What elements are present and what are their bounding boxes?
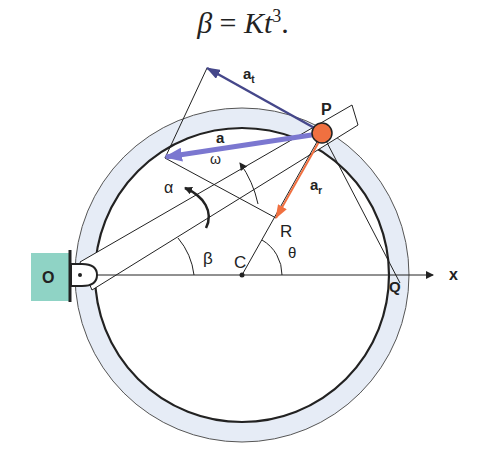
center-point-C	[240, 273, 245, 278]
label-beta: β	[203, 249, 213, 268]
label-theta: θ	[288, 244, 296, 261]
label-omega: ω	[210, 151, 221, 167]
label-C: C	[234, 253, 246, 272]
label-at: at	[243, 65, 255, 85]
label-Q: Q	[389, 278, 401, 295]
label-x: x	[449, 266, 458, 283]
pivot-pin	[71, 264, 97, 286]
label-R: R	[280, 222, 292, 241]
label-a: a	[216, 129, 225, 146]
pivot-point	[78, 273, 82, 277]
mechanism-diagram: O P Q C R x a at ar ω α β θ	[0, 0, 486, 467]
label-at-sub: t	[251, 74, 255, 85]
particle-P	[312, 123, 332, 143]
label-P: P	[321, 101, 332, 118]
label-O: O	[42, 269, 54, 286]
label-alpha: α	[164, 179, 173, 196]
label-ar-sub: r	[318, 185, 322, 196]
